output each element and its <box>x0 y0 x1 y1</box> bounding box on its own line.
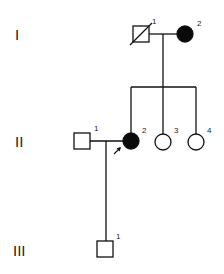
individual-I-2[interactable]: 2 <box>177 19 202 42</box>
proband-arrow-icon <box>114 147 121 154</box>
individual-number: 1 <box>152 17 157 26</box>
individual-II-3[interactable]: 3 <box>155 126 179 150</box>
female-symbol <box>123 133 139 149</box>
generation-label-III: III <box>13 242 26 259</box>
individual-I-1[interactable]: 1 <box>130 17 157 45</box>
generation-label-II: II <box>15 133 23 150</box>
individual-number: 3 <box>174 126 179 135</box>
female-symbol <box>155 134 171 150</box>
pedigree-diagram: I II III 1 2 1 2 3 4 <box>0 0 224 274</box>
individual-number: 2 <box>197 19 202 28</box>
individual-III-1[interactable]: 1 <box>97 232 121 257</box>
generation-label-I: I <box>15 26 19 43</box>
individual-number: 2 <box>142 126 147 135</box>
female-symbol <box>177 26 193 42</box>
individual-II-1[interactable]: 1 <box>74 124 99 149</box>
individual-number: 1 <box>116 232 121 241</box>
individual-number: 1 <box>94 124 99 133</box>
individual-number: 4 <box>207 126 212 135</box>
male-symbol <box>74 133 90 149</box>
male-symbol <box>97 241 113 257</box>
female-symbol <box>188 134 204 150</box>
individual-II-4[interactable]: 4 <box>188 126 212 150</box>
